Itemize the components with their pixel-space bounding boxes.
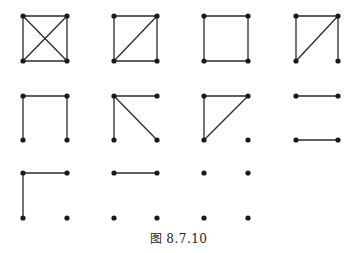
vertex-BR bbox=[154, 215, 159, 220]
vertex-TL bbox=[111, 13, 116, 18]
vertex-BR bbox=[335, 58, 340, 63]
vertex-TL bbox=[111, 170, 116, 175]
vertex-BL bbox=[293, 58, 298, 63]
vertex-BL bbox=[111, 137, 116, 142]
graph-g7 bbox=[201, 93, 250, 142]
vertex-BR bbox=[245, 58, 250, 63]
vertex-BR bbox=[64, 137, 69, 142]
edge-BL-TR bbox=[296, 16, 338, 61]
vertex-BR bbox=[154, 137, 159, 142]
graph-g8 bbox=[293, 93, 340, 142]
vertex-BR bbox=[64, 215, 69, 220]
vertex-BR bbox=[245, 215, 250, 220]
graph-g1 bbox=[20, 13, 69, 63]
vertex-TL bbox=[201, 93, 206, 98]
vertex-TL bbox=[20, 170, 25, 175]
vertex-TL bbox=[20, 93, 25, 98]
vertex-TL bbox=[111, 93, 116, 98]
vertex-BR bbox=[245, 137, 250, 142]
vertex-BL bbox=[20, 58, 25, 63]
vertex-BL bbox=[201, 58, 206, 63]
vertex-BL bbox=[293, 137, 298, 142]
edge-BL-TR bbox=[114, 16, 157, 61]
vertex-TR bbox=[245, 170, 250, 175]
graph-g11 bbox=[201, 170, 250, 220]
graph-g2 bbox=[111, 13, 159, 63]
vertex-TR bbox=[64, 93, 69, 98]
vertex-BL bbox=[111, 215, 116, 220]
edge-BL-TR bbox=[204, 96, 248, 140]
vertex-TR bbox=[335, 13, 340, 18]
vertex-TR bbox=[245, 13, 250, 18]
vertex-TL bbox=[293, 93, 298, 98]
figure-canvas: 图 8.7.10 bbox=[0, 0, 357, 253]
vertex-TL bbox=[293, 13, 298, 18]
vertex-TR bbox=[154, 93, 159, 98]
vertex-BL bbox=[20, 137, 25, 142]
graph-g9 bbox=[20, 170, 69, 220]
graph-g6 bbox=[111, 93, 159, 142]
vertex-TR bbox=[64, 170, 69, 175]
vertex-BR bbox=[154, 58, 159, 63]
vertex-TR bbox=[335, 93, 340, 98]
vertex-TL bbox=[20, 13, 25, 18]
graph-g4 bbox=[293, 13, 340, 63]
vertex-TL bbox=[201, 13, 206, 18]
graph-g5 bbox=[20, 93, 69, 142]
vertex-TR bbox=[154, 13, 159, 18]
vertex-TR bbox=[64, 13, 69, 18]
vertex-BL bbox=[111, 58, 116, 63]
graph-g3 bbox=[201, 13, 250, 63]
vertex-BL bbox=[201, 215, 206, 220]
vertex-TL bbox=[201, 170, 206, 175]
vertex-BR bbox=[335, 137, 340, 142]
graph-grid bbox=[0, 0, 357, 253]
figure-caption: 图 8.7.10 bbox=[0, 229, 357, 246]
vertex-TR bbox=[245, 93, 250, 98]
vertex-BL bbox=[201, 137, 206, 142]
edge-TL-BR bbox=[114, 96, 157, 140]
graph-g10 bbox=[111, 170, 159, 220]
vertex-TR bbox=[154, 170, 159, 175]
vertex-BR bbox=[64, 58, 69, 63]
vertex-BL bbox=[20, 215, 25, 220]
